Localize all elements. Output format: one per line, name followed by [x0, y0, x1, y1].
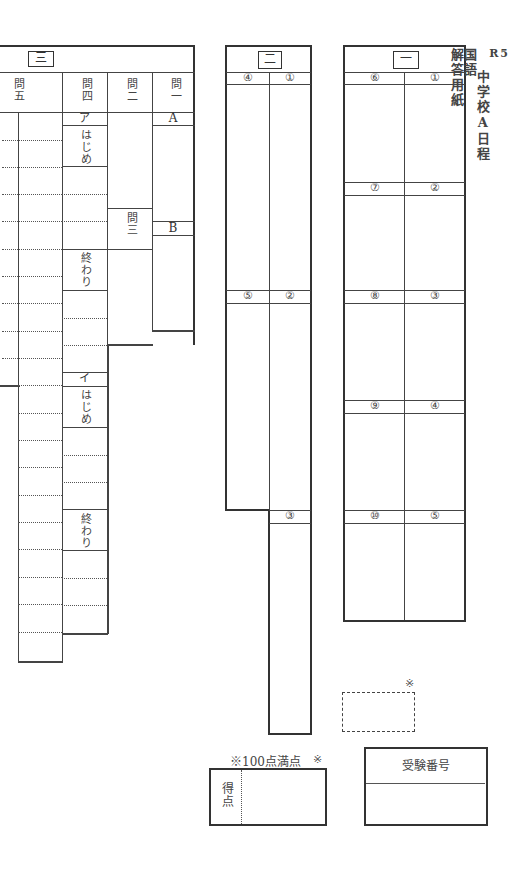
answer-box-1-7[interactable] — [345, 197, 403, 289]
score-box: 得点 — [209, 768, 327, 826]
answer-box-2-3[interactable] — [271, 525, 309, 731]
answer-box-2-1[interactable] — [270, 86, 309, 289]
answer-box-1-8[interactable] — [345, 305, 403, 399]
answer-box-1-5[interactable] — [406, 525, 464, 619]
q4-bottom-border — [62, 633, 108, 635]
q4-a-end-top-divider — [62, 249, 107, 250]
section-two-right-border — [310, 45, 312, 735]
answer-box-1-3[interactable] — [406, 305, 464, 399]
question-3-label: 問三 — [123, 212, 137, 236]
answer-box-2-5[interactable] — [227, 305, 268, 508]
title-year: R5 — [489, 48, 510, 59]
examinee-divider — [366, 783, 485, 784]
answer-box-1-4[interactable] — [406, 415, 464, 509]
question-2-label: 問二 — [123, 78, 137, 102]
q5-step-line — [0, 385, 20, 387]
section-three-right-border — [193, 45, 195, 345]
item-label-7: ⑦ — [345, 182, 404, 194]
q3-answer-box[interactable] — [108, 250, 151, 343]
section-two-row2-divider — [226, 303, 311, 304]
answer-box-1-9[interactable] — [345, 415, 403, 509]
examinee-number-label: 受験番号 — [366, 749, 485, 783]
header-divider — [0, 72, 195, 73]
section-three-top-border — [0, 45, 195, 47]
item-label-5: ⑤ — [227, 290, 269, 302]
q4-i-start-label: はじめ — [79, 389, 91, 425]
row-divider — [344, 84, 465, 85]
q4-i-mark-divider — [62, 386, 107, 387]
item-label-4: ④ — [405, 400, 464, 412]
section-three-label: 三 — [28, 51, 54, 67]
q1-a-label: A — [152, 112, 194, 125]
q4-a-end-label: 終わり — [79, 252, 91, 288]
item-label-9: ⑨ — [345, 400, 404, 412]
item-label-3: ③ — [405, 290, 464, 302]
examinee-number-box: 受験番号 — [364, 747, 488, 826]
row-divider — [344, 303, 465, 304]
section-two-left-bottom — [225, 509, 270, 511]
section-two-item3-left-border — [268, 509, 270, 735]
question-5-label: 問五 — [10, 78, 24, 102]
staff-use-mark: ※ — [402, 677, 416, 690]
q4-i-start-divider — [62, 427, 107, 428]
answer-box-1-10[interactable] — [345, 525, 403, 619]
item-label-2: ② — [405, 182, 464, 194]
q4-a-start-label: はじめ — [79, 129, 91, 165]
q4-right-border-lower — [107, 344, 109, 634]
q5-bottom-border — [18, 661, 63, 663]
section-two-label: 二 — [258, 51, 282, 69]
score-note: ※100点満点 — [230, 752, 301, 769]
section-two-row3-divider — [269, 523, 311, 524]
q4-i-mark: イ — [62, 372, 107, 385]
document-title: R5 中学校A日程 国語 解答用紙 — [486, 48, 510, 180]
section-two-bottom — [268, 733, 312, 735]
item-label-6: ⑥ — [345, 72, 404, 84]
title-doc: 解答用紙 — [450, 48, 463, 180]
row-divider — [344, 523, 465, 524]
q1-a-answer-box[interactable] — [153, 126, 193, 221]
score-divider — [241, 770, 242, 824]
q4-a-start-divider — [62, 166, 107, 167]
item-label-2: ② — [270, 290, 310, 302]
row-divider — [344, 195, 465, 196]
question-4-label: 問四 — [78, 78, 92, 102]
q4-a-mark: ア — [62, 112, 107, 125]
item-label-3: ③ — [270, 510, 310, 522]
question-1-label: 問一 — [167, 78, 181, 102]
section-one-column-divider — [404, 72, 405, 620]
score-label: 得点 — [218, 782, 232, 808]
q4-a-mark-divider — [62, 125, 107, 126]
item-label-10: ⑩ — [345, 510, 404, 522]
score-value-field[interactable] — [244, 772, 324, 822]
q4-i-end-label: 終わり — [79, 513, 91, 549]
answer-box-2-4[interactable] — [227, 86, 268, 289]
q4-a-end-divider — [62, 290, 107, 291]
section-two-row1-divider — [226, 84, 311, 85]
score-mark: ※ — [313, 753, 322, 766]
q5-q4-divider — [62, 72, 63, 662]
answer-box-2-2[interactable] — [270, 305, 309, 508]
q4-i-end-divider — [62, 550, 107, 551]
item-label-4: ④ — [227, 72, 269, 84]
q4-i-end-top-divider — [62, 509, 107, 510]
q2-q3-bottom-border — [107, 344, 153, 346]
q1-b-label: B — [152, 221, 194, 235]
row-divider — [344, 413, 465, 414]
q1-b-answer-box[interactable] — [153, 236, 193, 329]
item-label-8: ⑧ — [345, 290, 404, 302]
answer-box-1-6[interactable] — [345, 86, 403, 181]
item-label-5: ⑤ — [405, 510, 464, 522]
q1-bottom-border — [152, 330, 195, 332]
q2-q3-divider — [107, 208, 152, 209]
answer-box-1-2[interactable] — [406, 197, 464, 289]
item-label-1: ① — [270, 72, 310, 84]
q2-answer-box[interactable] — [108, 113, 151, 208]
section-two-top-border — [225, 45, 312, 47]
examinee-number-field[interactable] — [368, 786, 483, 822]
staff-use-box — [342, 692, 415, 732]
title-school: 中学校A日程 — [476, 70, 489, 162]
section-one-label: 一 — [393, 51, 419, 69]
